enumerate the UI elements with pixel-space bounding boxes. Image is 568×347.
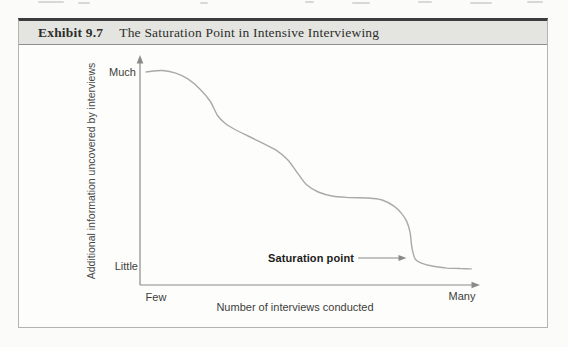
annotation-arrowhead-icon xyxy=(399,255,407,261)
y-axis-arrowhead-icon xyxy=(137,55,144,64)
x-tick-few: Few xyxy=(136,291,176,303)
x-tick-many: Many xyxy=(442,290,482,302)
x-axis-arrowhead-icon xyxy=(472,282,481,289)
y-tick-much: Much xyxy=(96,66,136,78)
saturation-point-label: Saturation point xyxy=(250,252,354,264)
chart-area: Much Little Few Many Number of interview… xyxy=(0,0,568,347)
y-axis-title: Additional information uncovered by inte… xyxy=(85,56,97,286)
saturation-curve xyxy=(146,70,471,268)
textbook-figure-page: Exhibit 9.7 The Saturation Point in Inte… xyxy=(0,0,568,347)
y-tick-little: Little xyxy=(96,260,138,272)
x-axis-title: Number of interviews conducted xyxy=(195,301,395,313)
